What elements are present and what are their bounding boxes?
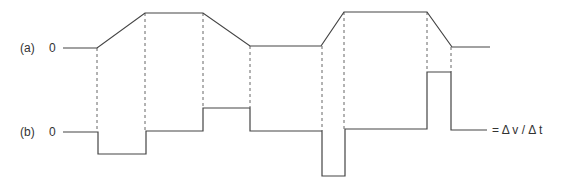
row-a-label: (a) [20,41,35,55]
diagram-canvas [0,0,563,187]
row-b-label: (b) [20,125,35,139]
equation-label: = Δ v / Δ t [492,123,542,137]
row-a-zero: 0 [49,41,56,55]
waveform-a [63,12,490,48]
dashed-guides [97,12,451,132]
row-b-zero: 0 [49,125,56,139]
waveform-b [63,72,487,176]
